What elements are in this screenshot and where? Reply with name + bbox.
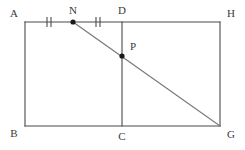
label-N: N (69, 4, 77, 16)
geometry-diagram: A N D H P B C G (0, 0, 245, 150)
segment-NG-diagonal (73, 22, 220, 126)
point-dot-P (119, 53, 124, 58)
label-D: D (118, 4, 126, 16)
label-H: H (227, 7, 235, 19)
point-dot-N (70, 19, 75, 24)
label-C: C (118, 130, 125, 142)
label-B: B (10, 127, 17, 139)
label-A: A (10, 7, 18, 19)
geometry-canvas: A N D H P B C G (0, 0, 245, 150)
label-P: P (130, 40, 136, 52)
label-G: G (227, 128, 235, 140)
